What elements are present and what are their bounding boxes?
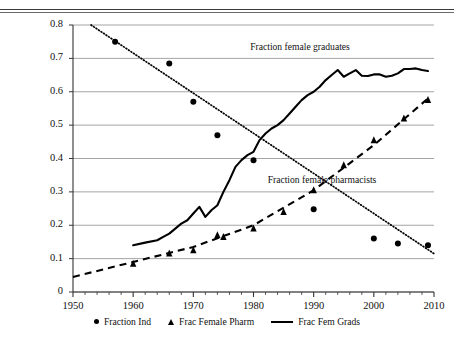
- legend-item-label: Fraction Ind: [104, 316, 151, 327]
- series-line-frac-fem-grads: [133, 68, 428, 245]
- x-tick-label: 1990: [292, 300, 336, 311]
- y-tick-label: 0.3: [33, 185, 63, 196]
- y-tick-label: 0.2: [33, 218, 63, 229]
- solid-line-marker-icon: [271, 321, 293, 323]
- x-tick-label: 1950: [51, 300, 95, 311]
- y-tick-label: 0.5: [33, 118, 63, 129]
- data-point-triangle: [310, 186, 316, 193]
- data-point-circle: [395, 241, 401, 247]
- data-point-circle: [214, 132, 220, 138]
- chart-legend: Fraction IndFrac Female PharmFrac Fem Gr…: [0, 316, 454, 327]
- data-point-circle: [166, 60, 172, 66]
- data-point-triangle: [371, 136, 377, 143]
- triangle-marker-icon: [168, 319, 174, 325]
- data-point-circle: [251, 157, 257, 163]
- chart-annotation-label: Fraction female pharmacists: [268, 174, 377, 185]
- data-point-triangle: [214, 231, 220, 238]
- data-point-circle: [112, 39, 118, 45]
- legend-item-label: Frac Fem Grads: [298, 316, 360, 327]
- chart-figure: 00.10.20.30.40.50.60.70.8 19501960197019…: [0, 0, 454, 338]
- legend-item: Frac Female Pharm: [168, 316, 254, 327]
- y-tick-label: 0.8: [33, 18, 63, 29]
- data-point-circle: [425, 242, 431, 248]
- y-tick-label: 0.7: [33, 51, 63, 62]
- x-tick-label: 1970: [171, 300, 215, 311]
- x-tick-label: 1960: [111, 300, 155, 311]
- legend-item-label: Frac Female Pharm: [179, 316, 254, 327]
- y-tick-label: 0.6: [33, 85, 63, 96]
- y-tick-label: 0.4: [33, 152, 63, 163]
- circle-marker-icon: [94, 319, 99, 324]
- plot-canvas: [0, 0, 454, 338]
- chart-annotation-label: Fraction female graduates: [250, 41, 350, 52]
- data-point-triangle: [220, 233, 226, 240]
- data-point-circle: [311, 206, 317, 212]
- legend-item: Fraction Ind: [94, 316, 151, 327]
- x-tick-label: 1980: [232, 300, 276, 311]
- data-point-circle: [190, 99, 196, 105]
- y-tick-label: 0.1: [33, 252, 63, 263]
- x-tick-label: 2000: [352, 300, 396, 311]
- y-tick-label: 0: [33, 285, 63, 296]
- data-point-triangle: [341, 161, 347, 168]
- x-tick-label: 2010: [412, 300, 454, 311]
- data-point-circle: [371, 236, 377, 242]
- legend-item: Frac Fem Grads: [271, 316, 360, 327]
